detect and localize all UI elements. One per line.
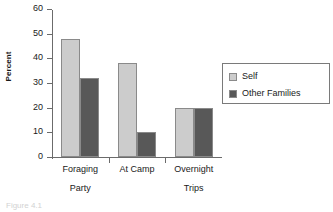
legend-swatch-icon (229, 90, 237, 98)
bar (137, 132, 156, 157)
y-tick: 10 (47, 132, 52, 133)
x-axis-label-line1: Foraging (52, 164, 109, 174)
x-axis-label: At Camp (109, 164, 166, 174)
y-tick: 40 (47, 58, 52, 59)
x-axis-label-line2: Party (52, 183, 109, 193)
figure-caption: Figure 4.1 (6, 201, 42, 210)
y-tick: 60 (47, 9, 52, 10)
x-axis-label: ForagingParty (52, 164, 109, 193)
y-tick-label: 40 (33, 52, 43, 62)
legend-label: Other Families (242, 89, 301, 98)
bar (194, 108, 213, 157)
x-axis-label: OvernightTrips (165, 164, 222, 193)
legend-item: Other Families (229, 86, 323, 101)
y-tick-label: 0 (38, 151, 43, 161)
bar (80, 78, 99, 157)
y-axis-line (52, 10, 53, 159)
x-axis-label-line1: At Camp (109, 164, 166, 174)
y-tick-label: 50 (33, 28, 43, 38)
y-tick-label: 30 (33, 77, 43, 87)
chart-legend: SelfOther Families (222, 63, 330, 104)
y-tick-label: 10 (33, 126, 43, 136)
bar (175, 108, 194, 157)
y-tick: 50 (47, 34, 52, 35)
y-tick: 30 (47, 83, 52, 84)
y-axis-title: Percent (4, 37, 13, 97)
y-tick: 20 (47, 108, 52, 109)
x-axis-label-line1: Overnight (165, 164, 222, 174)
legend-label: Self (242, 72, 258, 81)
x-tick (109, 158, 110, 163)
y-tick: 0 (47, 157, 52, 158)
x-axis-line (52, 157, 222, 158)
x-tick (165, 158, 166, 163)
x-axis-label-line2: Trips (165, 183, 222, 193)
plot-area: 6050403020100 (52, 10, 222, 158)
bar (61, 39, 80, 157)
bar (118, 63, 137, 157)
bar-chart-figure: Percent 6050403020100 ForagingPartyAt Ca… (0, 0, 333, 212)
y-tick-label: 60 (33, 3, 43, 13)
legend-item: Self (229, 69, 323, 84)
y-tick-label: 20 (33, 102, 43, 112)
legend-swatch-icon (229, 73, 237, 81)
